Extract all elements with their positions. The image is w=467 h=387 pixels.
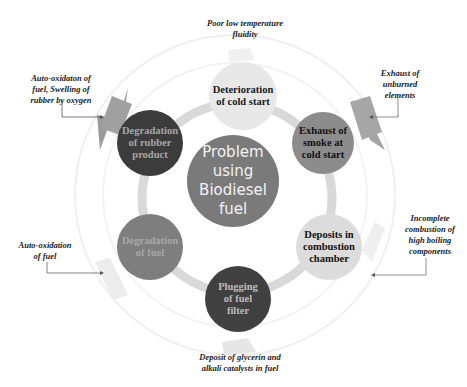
cause-line: Poor low temperature: [190, 18, 300, 29]
center-line: fuel: [199, 200, 267, 219]
node-label: of rubber: [122, 137, 178, 149]
node-degradation-rubber: Degradation of rubber product: [117, 110, 183, 176]
cause-line: alkali catalysts in fuel: [180, 363, 300, 374]
cause-line: Deposit of glycerin and: [180, 352, 300, 363]
cause-top-left: Auto-oxidaton of fuel, Swelling of rubbe…: [25, 73, 97, 106]
cause-line: Incomplete: [395, 213, 465, 224]
node-label: of cold start: [213, 96, 274, 108]
cause-bottom: Deposit of glycerin and alkali catalysts…: [180, 352, 300, 374]
cause-left: Auto-oxidation of fuel: [12, 240, 78, 262]
arrow-right: [375, 258, 426, 275]
node-label: Plugging: [218, 281, 258, 293]
cause-line: rubber by oxygen: [25, 95, 97, 106]
node-label: Degradation: [122, 235, 178, 247]
cause-line: components: [395, 246, 465, 257]
cause-line: of fuel: [12, 251, 78, 262]
node-degradation-fuel: Degradation of fuel: [117, 214, 183, 280]
node-label: filter: [218, 305, 258, 317]
bolt-top-right-body: [350, 96, 382, 140]
node-plugging-fuel-filter: Plugging of fuel filter: [205, 266, 271, 332]
cause-line: high boiling: [395, 235, 465, 246]
cause-line: elements: [370, 90, 430, 101]
node-label: Degradation: [122, 125, 178, 137]
cause-top: Poor low temperature fluidity: [190, 18, 300, 40]
cause-top-right: Exhaust of unburned elements: [370, 68, 430, 101]
node-exhaust-smoke: Exhaust of smoke at cold start: [292, 112, 354, 174]
center-line: Problem: [199, 143, 267, 162]
node-label: of fuel: [218, 293, 258, 305]
center-problem-node: Problem using Biodiesel fuel: [187, 135, 279, 227]
node-label: cold start: [299, 149, 347, 161]
cause-line: Exhaust of: [370, 68, 430, 79]
node-deposits-combustion: Deposits in combustion chamber: [296, 214, 362, 280]
node-label: Deterioration: [213, 84, 274, 96]
center-line: Biodiesel: [199, 181, 267, 200]
cause-line: combustion of: [395, 224, 465, 235]
node-label: chamber: [303, 253, 355, 265]
node-label: of fuel: [122, 247, 178, 259]
center-line: using: [199, 162, 267, 181]
arrow-top-right: [373, 115, 398, 117]
node-label: Deposits in: [303, 229, 355, 241]
cause-line: fluidity: [190, 29, 300, 40]
cause-line: Auto-oxidaton of: [25, 73, 97, 84]
lightning-icon-right: [362, 222, 385, 262]
node-label: product: [122, 149, 178, 161]
node-label: combustion: [303, 241, 355, 253]
cause-line: Auto-oxidation: [12, 240, 78, 251]
cause-right: Incomplete combustion of high boiling co…: [395, 213, 465, 257]
node-deterioration-cold-start: Deterioration of cold start: [209, 62, 277, 130]
lightning-icon-top: [228, 48, 254, 62]
cause-line: unburned: [370, 79, 430, 90]
node-label: Exhaust of: [299, 125, 347, 137]
cause-line: fuel, Swelling of: [25, 84, 97, 95]
node-label: smoke at: [299, 137, 347, 149]
